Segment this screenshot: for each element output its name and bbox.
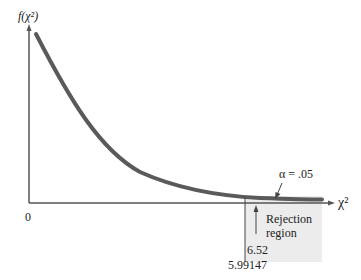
chart-canvas: [0, 0, 361, 280]
x-axis-arrow-icon: [328, 201, 335, 206]
rejection-label-line1: Rejection: [266, 213, 312, 225]
y-axis-label: f(χ²): [18, 10, 38, 22]
critical-value-label: 5.99147: [228, 259, 267, 271]
chi-square-chart: f(χ²) χ² 0 α = .05 Rejection region 6.52…: [0, 0, 361, 280]
y-axis-arrow-icon: [27, 24, 32, 31]
origin-tick-label: 0: [25, 211, 31, 223]
rejection-label-line2: region: [266, 227, 297, 239]
test-stat-label: 6.52: [247, 244, 268, 256]
alpha-label: α = .05: [279, 168, 313, 180]
x-axis-label: χ²: [338, 196, 348, 210]
